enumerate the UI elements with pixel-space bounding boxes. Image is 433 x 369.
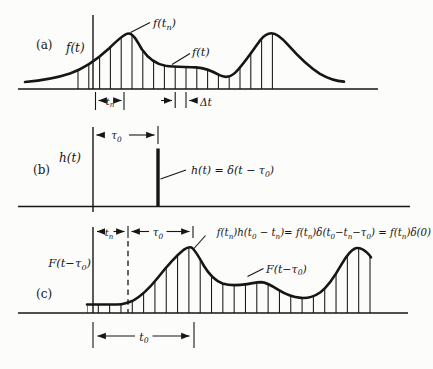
panel-c-tag: (c) — [36, 287, 52, 301]
panel-b-axis-label: h(t) — [59, 151, 81, 165]
panel-a-tag: (a) — [36, 38, 53, 52]
panel-a-axis-label: f(t) — [65, 41, 85, 55]
convolution-sampling-figure: (a) f(t) f(tn) f(t) tn Δt (b) h(t) τ0 h(… — [0, 0, 433, 369]
panel-a-curve-label: f(t) — [191, 45, 210, 59]
panel-a-peak-label: f(tn) — [152, 16, 176, 32]
panel-a-dt-label: Δt — [199, 96, 213, 108]
panel-b-impulse-label: h(t) = δ(t − τ0) — [191, 164, 274, 179]
panel-b-tag: (b) — [33, 163, 50, 177]
